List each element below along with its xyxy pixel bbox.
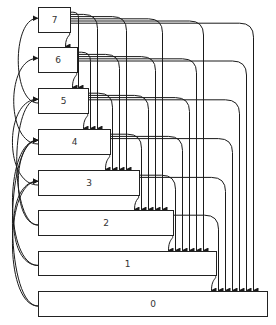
edge-5-to-4	[84, 113, 88, 129]
edge-3-to-2	[135, 195, 139, 210]
node-1: 1	[39, 252, 217, 276]
back-edge-4-to-6	[14, 58, 38, 144]
edge-6-to-5	[73, 72, 77, 88]
node-label: 0	[150, 299, 156, 309]
node-6: 6	[39, 48, 78, 73]
edge-1-to-0	[212, 275, 216, 291]
node-3: 3	[39, 171, 140, 196]
node-2: 2	[39, 211, 174, 236]
node-label: 2	[103, 218, 109, 228]
nodes-layer: 76543210	[39, 8, 268, 317]
edge-2-to-1	[169, 235, 173, 251]
node-4: 4	[39, 130, 111, 155]
node-label: 1	[125, 259, 131, 269]
node-0: 0	[39, 292, 268, 317]
back-edge-3-to-5	[12, 99, 38, 185]
node-label: 3	[86, 178, 92, 188]
node-label: 5	[61, 96, 67, 106]
node-5: 5	[39, 89, 89, 114]
edge-4-to-3	[106, 154, 110, 170]
node-label: 6	[55, 55, 61, 65]
node-label: 4	[72, 137, 78, 147]
left-arcs-layer	[12, 18, 38, 306]
node-7: 7	[39, 8, 71, 33]
dependency-diagram: 76543210	[0, 0, 276, 325]
edge-7-to-6	[66, 32, 70, 47]
node-label: 7	[52, 15, 58, 25]
back-edge-1-to-3	[14, 181, 38, 265]
